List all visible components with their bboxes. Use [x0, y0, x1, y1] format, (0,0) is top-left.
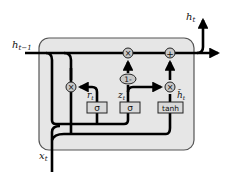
sigma-label: σ [94, 103, 100, 113]
candidate-tanh-gate: tanh [158, 102, 183, 113]
one-minus-op: 1- [120, 74, 136, 84]
reset-gate-sigma: σ [87, 102, 107, 113]
gru-cell-diagram: × × + × 1- σ σ tanh ht−1 ht xt rt zt [0, 0, 233, 172]
sigma-label: σ [127, 103, 133, 113]
h-prev-label: ht−1 [12, 39, 32, 52]
keep-multiply-op: × [123, 48, 133, 58]
multiply-icon: × [167, 83, 174, 92]
multiply-icon: × [68, 83, 75, 92]
reset-multiply-op: × [66, 82, 76, 92]
plus-icon: + [166, 49, 174, 59]
add-op: + [165, 48, 175, 59]
multiply-icon: × [125, 49, 132, 58]
tanh-label: tanh [162, 104, 179, 113]
update-gate-sigma: σ [120, 102, 140, 113]
x-in-label: xt [39, 150, 48, 163]
candidate-multiply-op: × [165, 82, 175, 92]
h-out-label: ht [186, 11, 195, 24]
one-minus-label: 1- [124, 75, 132, 84]
output-branch-wire [197, 20, 203, 53]
